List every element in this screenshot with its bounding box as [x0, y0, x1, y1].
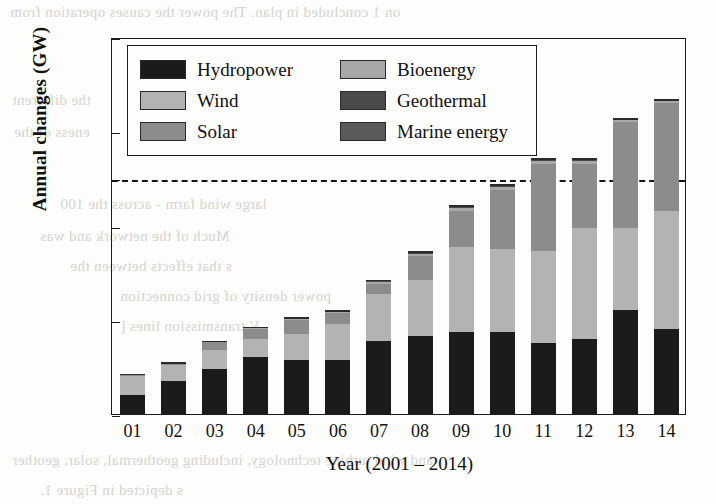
bar-segment[interactable]	[613, 310, 638, 414]
x-tick-label: 08	[398, 421, 442, 442]
bar-segment[interactable]	[613, 228, 638, 310]
x-tick-label: 11	[521, 421, 565, 442]
x-tick-label: 12	[562, 421, 606, 442]
reference-line-100	[112, 180, 685, 182]
bar-top-edge	[325, 310, 350, 311]
legend-item[interactable]: Solar	[140, 121, 326, 143]
legend-swatch-icon	[340, 122, 386, 141]
x-tick-label: 06	[316, 421, 360, 442]
stacked-bar-chart-figure: Annual changes (GW) 04080100120160 01020…	[0, 0, 716, 504]
bar-segment[interactable]	[449, 332, 474, 414]
bar-segment[interactable]	[490, 187, 515, 191]
legend-label: Wind	[197, 90, 238, 112]
bar-segment[interactable]	[325, 360, 350, 414]
bar-stack[interactable]	[613, 37, 638, 414]
bar-top-edge	[531, 158, 556, 159]
legend-swatch-icon	[140, 122, 186, 141]
bar-top-edge	[284, 317, 309, 318]
legend-item[interactable]: Hydropower	[140, 59, 326, 81]
bar-segment[interactable]	[243, 339, 268, 358]
x-tick-label: 10	[480, 421, 524, 442]
x-tick-label: 14	[644, 421, 688, 442]
legend-item[interactable]: Wind	[140, 90, 326, 112]
bar-segment[interactable]	[613, 122, 638, 228]
bar-segment[interactable]	[572, 339, 597, 414]
x-tick-label: 01	[111, 421, 155, 442]
x-tick-label: 04	[234, 421, 278, 442]
bar-segment[interactable]	[120, 376, 145, 395]
x-tick-label: 03	[193, 421, 237, 442]
bar-segment[interactable]	[284, 360, 309, 414]
legend-label: Geothermal	[397, 90, 487, 112]
bar-segment[interactable]	[284, 320, 309, 334]
bar-segment[interactable]	[161, 365, 186, 381]
legend-item[interactable]: Bioenergy	[340, 59, 526, 81]
bar-segment[interactable]	[613, 120, 638, 122]
x-tick-label: 09	[439, 421, 483, 442]
bar-segment[interactable]	[202, 341, 227, 350]
plot-frame: 04080100120160 0102030405060708091011121…	[111, 38, 686, 415]
chart-legend: HydropowerBioenergyWindGeothermalSolarMa…	[127, 45, 537, 156]
bar-top-edge	[654, 99, 679, 100]
bar-stack[interactable]	[654, 37, 679, 414]
bar-segment[interactable]	[654, 329, 679, 414]
y-tick-mark	[112, 228, 120, 229]
legend-swatch-icon	[340, 60, 386, 79]
bar-segment[interactable]	[366, 294, 391, 341]
bar-segment[interactable]	[325, 313, 350, 325]
bar-segment[interactable]	[161, 381, 186, 414]
bar-segment[interactable]	[366, 284, 391, 293]
bar-segment[interactable]	[572, 164, 597, 228]
legend-label: Solar	[197, 121, 237, 143]
legend-item[interactable]: Geothermal	[340, 90, 526, 112]
bar-top-edge	[366, 280, 391, 281]
bar-segment[interactable]	[572, 161, 597, 165]
bar-segment[interactable]	[654, 101, 679, 103]
y-tick-mark	[112, 39, 120, 40]
legend-swatch-icon	[340, 91, 386, 110]
bar-segment[interactable]	[572, 228, 597, 339]
bar-segment[interactable]	[449, 211, 474, 246]
bar-top-edge	[161, 362, 186, 363]
bar-segment[interactable]	[408, 280, 433, 337]
y-tick-mark	[112, 133, 120, 134]
y-axis-title: Annual changes (GW)	[29, 19, 51, 219]
bar-segment[interactable]	[654, 103, 679, 211]
x-tick-label: 05	[275, 421, 319, 442]
legend-swatch-icon	[140, 91, 186, 110]
plot-area: 04080100120160 0102030405060708091011121…	[112, 39, 685, 414]
bar-segment[interactable]	[408, 256, 433, 280]
bar-segment[interactable]	[202, 350, 227, 369]
bar-top-edge	[202, 341, 227, 342]
bar-segment[interactable]	[366, 282, 391, 284]
bar-segment[interactable]	[654, 211, 679, 329]
legend-label: Marine energy	[397, 121, 508, 143]
bar-segment[interactable]	[531, 164, 556, 251]
bar-segment[interactable]	[284, 334, 309, 360]
bar-segment[interactable]	[531, 251, 556, 343]
bar-top-edge	[572, 158, 597, 159]
legend-item[interactable]: Marine energy	[340, 121, 526, 143]
bar-segment[interactable]	[449, 247, 474, 332]
bar-top-edge	[408, 251, 433, 252]
x-tick-label: 13	[603, 421, 647, 442]
bar-segment[interactable]	[202, 369, 227, 414]
bar-segment[interactable]	[449, 208, 474, 212]
bar-top-edge	[449, 205, 474, 206]
bar-segment[interactable]	[490, 190, 515, 249]
bar-segment[interactable]	[531, 161, 556, 165]
bar-segment[interactable]	[490, 249, 515, 331]
bar-segment[interactable]	[366, 341, 391, 414]
x-tick-label: 02	[152, 421, 196, 442]
bar-segment[interactable]	[408, 254, 433, 256]
legend-label: Hydropower	[197, 59, 293, 81]
y-tick-mark	[112, 322, 120, 323]
bar-segment[interactable]	[408, 336, 433, 414]
bar-segment[interactable]	[243, 329, 268, 338]
bar-segment[interactable]	[490, 332, 515, 414]
bar-segment[interactable]	[531, 343, 556, 414]
bar-stack[interactable]	[572, 37, 597, 414]
bar-segment[interactable]	[325, 324, 350, 359]
bar-segment[interactable]	[120, 395, 145, 414]
bar-segment[interactable]	[243, 357, 268, 414]
